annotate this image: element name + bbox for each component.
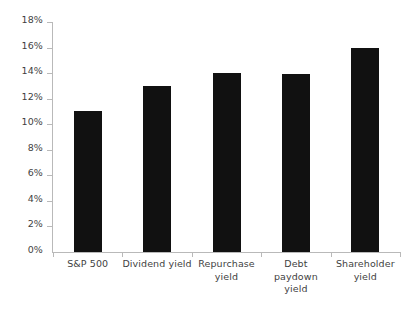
x-axis-tick-mark xyxy=(53,252,54,257)
y-axis-tick-label: 10% xyxy=(22,117,43,127)
y-axis-tick-label: 6% xyxy=(28,168,43,178)
x-axis-tick-mark xyxy=(331,252,332,257)
y-axis-tick-label: 18% xyxy=(22,15,43,25)
y-axis-tick-label: 12% xyxy=(22,92,43,102)
y-axis-tick-label: 2% xyxy=(28,219,43,229)
x-axis-category-label: Shareholderyield xyxy=(331,258,400,283)
bar xyxy=(74,111,102,252)
x-axis-category-label: Dividend yield xyxy=(122,258,191,271)
bar xyxy=(351,48,379,252)
y-axis-tick-mark xyxy=(47,226,52,227)
y-axis-tick-mark xyxy=(47,48,52,49)
x-axis-category-label: Debt paydownyield xyxy=(261,258,330,296)
x-axis-line xyxy=(52,252,400,253)
plot-area xyxy=(53,22,400,252)
y-axis-tick-mark xyxy=(47,73,52,74)
bar xyxy=(213,73,241,252)
bar xyxy=(282,74,310,252)
bar xyxy=(143,86,171,252)
y-axis-tick-mark xyxy=(47,99,52,100)
y-axis-tick-mark xyxy=(47,22,52,23)
x-axis-tick-mark xyxy=(400,252,401,257)
y-axis-tick-mark xyxy=(47,150,52,151)
x-axis-tick-mark xyxy=(192,252,193,257)
y-axis-tick-label: 4% xyxy=(28,194,43,204)
y-axis-tick-mark xyxy=(47,175,52,176)
y-axis-tick-label: 16% xyxy=(22,41,43,51)
x-axis-category-label: S&P 500 xyxy=(53,258,122,271)
y-axis-tick-label: 8% xyxy=(28,143,43,153)
y-axis-tick-label: 0% xyxy=(28,245,43,255)
x-axis-tick-mark xyxy=(261,252,262,257)
x-axis-category-label: Repurchaseyield xyxy=(192,258,261,283)
y-axis-tick-mark xyxy=(47,124,52,125)
x-axis-tick-mark xyxy=(122,252,123,257)
y-axis-tick-label: 14% xyxy=(22,66,43,76)
bar-chart: 0%2%4%6%8%10%12%14%16%18% S&P 500Dividen… xyxy=(0,0,418,312)
y-axis-tick-mark xyxy=(47,201,52,202)
